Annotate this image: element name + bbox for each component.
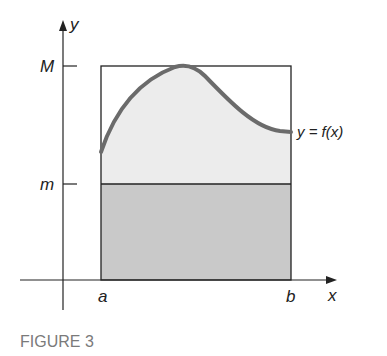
tick-label-a: a: [98, 287, 107, 306]
tick-label-m: m: [40, 175, 54, 194]
curve-label: y = f(x): [296, 123, 343, 140]
tick-label-b: b: [286, 287, 295, 306]
y-axis-label: y: [69, 15, 80, 34]
lower-rectangle: [101, 184, 291, 280]
tick-label-M: M: [40, 57, 55, 76]
figure-caption: FIGURE 3: [20, 333, 94, 350]
x-axis-label: x: [327, 286, 337, 305]
figure-diagram: y x M m a b y = f(x) FIGURE 3: [0, 0, 387, 356]
x-axis-arrow-icon: [326, 276, 337, 284]
y-axis-arrow-icon: [59, 20, 67, 31]
